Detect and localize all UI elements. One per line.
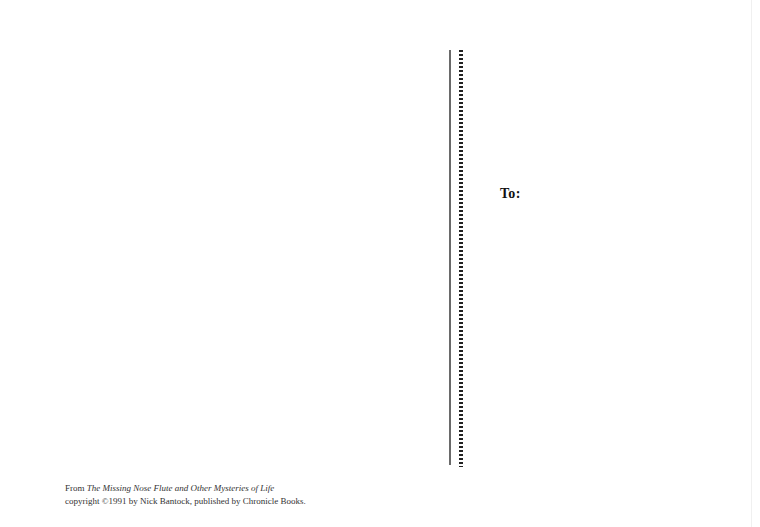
divider-solid-line [449,50,451,465]
divider-dotted-line [459,50,463,467]
book-title: The Missing Nose Flute and Other Mysteri… [87,483,274,493]
address-label: To: [500,186,521,202]
credits: From The Missing Nose Flute and Other My… [65,482,306,508]
postcard-back: To: From The Missing Nose Flute and Othe… [0,0,760,527]
credits-line-1: From The Missing Nose Flute and Other My… [65,482,306,495]
card-right-edge [751,0,752,527]
credits-line-2: copyright ©1991 by Nick Bantock, publish… [65,495,306,508]
credits-from: From [65,483,87,493]
